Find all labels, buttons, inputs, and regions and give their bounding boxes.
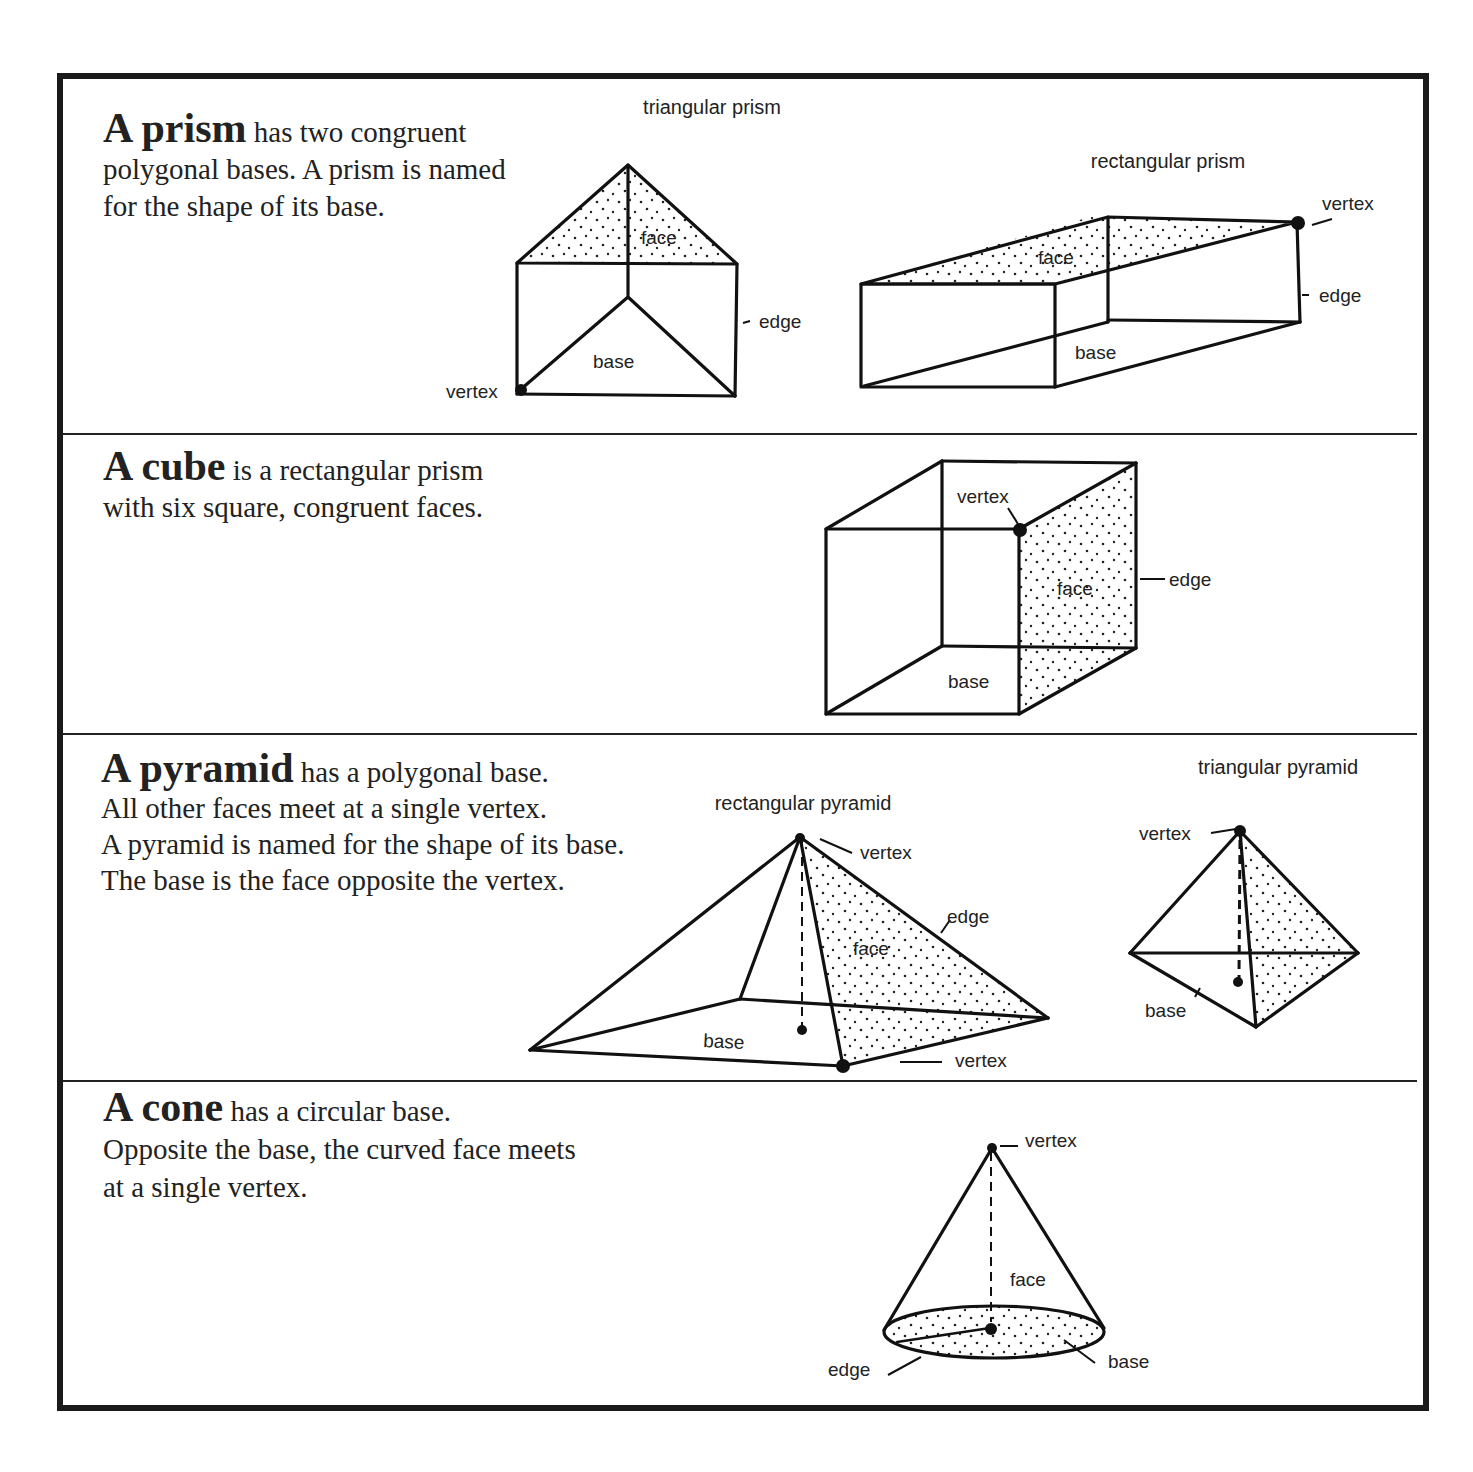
- label-face: face: [853, 938, 889, 959]
- vertex-dot: [1234, 825, 1246, 837]
- label-base: base: [1145, 1000, 1186, 1021]
- figure-caption: triangular pyramid: [1198, 756, 1358, 778]
- label-vertex: vertex: [957, 486, 1009, 507]
- label-vertex: vertex: [1322, 193, 1374, 214]
- label-face: face: [641, 227, 677, 248]
- vertex-dot: [515, 384, 527, 396]
- cube-figure: vertex face edge base: [826, 461, 1211, 714]
- label-vertex: vertex: [955, 1050, 1007, 1071]
- page: A prism has two congruent polygonal base…: [0, 0, 1473, 1472]
- label-edge: edge: [759, 311, 801, 332]
- label-edge: edge: [1169, 569, 1211, 590]
- label-base: base: [948, 671, 989, 692]
- rectangular-prism-figure: rectangular prism face edge base vertex: [861, 150, 1374, 387]
- label-vertex: vertex: [1025, 1130, 1077, 1151]
- triangular-pyramid-figure: triangular pyramid vertex base: [1130, 756, 1358, 1027]
- vertex-dot: [836, 1059, 850, 1073]
- base-center-dot: [797, 1025, 807, 1035]
- base-center-dot: [1233, 977, 1243, 987]
- label-base: base: [703, 1030, 745, 1053]
- label-edge: edge: [947, 906, 989, 927]
- label-base: base: [593, 351, 634, 372]
- label-face: face: [1010, 1269, 1046, 1290]
- base-center-dot: [985, 1323, 997, 1335]
- label-face: face: [1057, 578, 1093, 599]
- label-edge: edge: [1319, 285, 1361, 306]
- vertex-dot: [1291, 216, 1305, 230]
- cone-figure: vertex face edge base: [828, 1130, 1149, 1380]
- vertex-dot: [987, 1143, 997, 1153]
- label-vertex: vertex: [860, 842, 912, 863]
- label-base: base: [1108, 1351, 1149, 1372]
- diagrams-layer: triangular prism face edge base vertex r…: [0, 0, 1473, 1472]
- figure-caption: rectangular prism: [1091, 150, 1246, 172]
- vertex-dot: [1013, 523, 1027, 537]
- rectangular-pyramid-figure: rectangular pyramid vertex edge face bas…: [530, 792, 1048, 1073]
- label-vertex: vertex: [446, 381, 498, 402]
- label-edge: edge: [828, 1359, 870, 1380]
- figure-caption: triangular prism: [643, 96, 781, 118]
- triangular-prism-figure: triangular prism face edge base vertex: [446, 96, 801, 402]
- label-vertex: vertex: [1139, 823, 1191, 844]
- label-face: face: [1038, 247, 1074, 268]
- figure-caption: rectangular pyramid: [715, 792, 892, 814]
- label-base: base: [1075, 342, 1116, 363]
- vertex-dot: [795, 833, 805, 843]
- stippled-face: [861, 217, 1297, 284]
